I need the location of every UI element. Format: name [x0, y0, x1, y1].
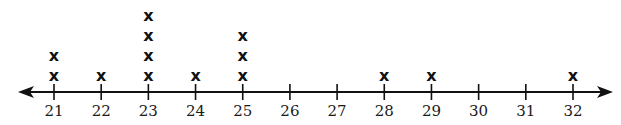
tick-label-29: 29	[422, 102, 441, 120]
tick-labels: 212223242526272829303132	[44, 102, 582, 120]
tick-label-32: 32	[563, 102, 582, 120]
tick-label-31: 31	[516, 102, 535, 120]
dot-plot: 212223242526272829303132 xxxxxxxxxxxxxx	[0, 0, 621, 125]
tick-label-23: 23	[139, 102, 158, 120]
tick-label-27: 27	[328, 102, 347, 120]
x-mark-icon: x	[190, 66, 201, 85]
x-mark-icon: x	[568, 66, 579, 85]
x-mark-icon: x	[379, 66, 390, 85]
tick-label-30: 30	[469, 102, 488, 120]
x-mark-icon: x	[49, 46, 60, 65]
tick-label-26: 26	[280, 102, 299, 120]
tick-label-22: 22	[92, 102, 111, 120]
x-mark-icon: x	[143, 6, 154, 25]
x-mark-icon: x	[143, 46, 154, 65]
tick-label-25: 25	[233, 102, 252, 120]
x-mark-icon: x	[426, 66, 437, 85]
x-mark-icon: x	[238, 26, 249, 45]
tick-label-24: 24	[186, 102, 205, 120]
tick-label-28: 28	[375, 102, 394, 120]
x-mark-icon: x	[238, 46, 249, 65]
number-line	[18, 86, 613, 98]
x-mark-icon: x	[96, 66, 107, 85]
x-mark-icon: x	[238, 66, 249, 85]
data-marks: xxxxxxxxxxxxxx	[49, 6, 579, 85]
x-mark-icon: x	[143, 26, 154, 45]
x-mark-icon: x	[49, 66, 60, 85]
x-mark-icon: x	[143, 66, 154, 85]
tick-label-21: 21	[44, 102, 63, 120]
